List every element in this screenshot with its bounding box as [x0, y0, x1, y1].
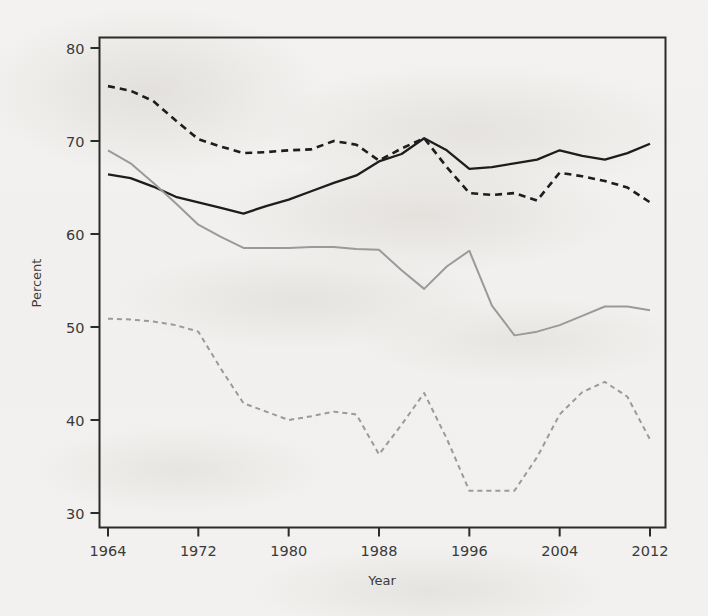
- y-tick-label: 80: [66, 41, 84, 57]
- series-line-gray-solid: [108, 150, 650, 335]
- y-tick-label: 70: [66, 134, 84, 150]
- series-line-black-dashed-upper: [108, 86, 650, 202]
- x-tick-label: 1996: [451, 543, 488, 559]
- series-line-gray-dashed-lower: [108, 319, 650, 491]
- y-tick-label: 50: [66, 320, 84, 336]
- y-tick-label: 40: [66, 413, 84, 429]
- data-series-group: [108, 86, 650, 491]
- x-tick-label: 1980: [270, 543, 307, 559]
- plot-border: [100, 38, 666, 528]
- y-tick-label: 30: [66, 506, 84, 522]
- x-tick-label: 2004: [541, 543, 578, 559]
- y-axis-title: Percent: [29, 259, 44, 308]
- x-axis-ticks: 1964197219801988199620042012: [90, 528, 669, 559]
- x-tick-label: 1972: [180, 543, 217, 559]
- chart-canvas: 304050607080 196419721980198819962004201…: [0, 0, 708, 616]
- series-line-black-solid: [108, 138, 650, 213]
- x-tick-label: 2012: [632, 543, 669, 559]
- x-tick-label: 1988: [361, 543, 398, 559]
- x-tick-label: 1964: [90, 543, 127, 559]
- x-axis-title: Year: [367, 573, 396, 588]
- y-axis-ticks: 304050607080: [66, 41, 99, 522]
- y-tick-label: 60: [66, 227, 84, 243]
- line-chart: 304050607080 196419721980198819962004201…: [0, 0, 708, 616]
